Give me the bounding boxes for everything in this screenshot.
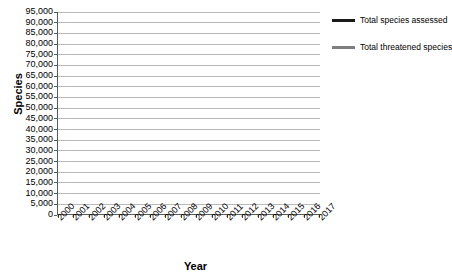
y-axis-tick-mark: [54, 108, 57, 109]
gridline: [57, 33, 320, 34]
y-axis-tick-mark: [54, 65, 57, 66]
chart-legend: Total species assessedTotal threatened s…: [332, 13, 450, 67]
y-axis-tick-label: 45,000: [7, 114, 53, 123]
legend-item-label: Total species assessed: [360, 15, 447, 25]
gridline: [57, 86, 320, 87]
gridline: [57, 161, 320, 162]
y-axis-tick-label: 90,000: [7, 18, 53, 27]
y-axis-tick-mark: [54, 204, 57, 205]
y-axis-tick-mark: [54, 22, 57, 23]
y-axis-line: [57, 12, 58, 215]
gridline: [57, 108, 320, 109]
y-axis-tick-label: 30,000: [7, 146, 53, 155]
legend-line-swatch: [332, 19, 355, 22]
gridline: [57, 12, 320, 13]
x-axis-title: Year: [0, 260, 451, 272]
y-axis-tick-mark: [54, 129, 57, 130]
gridline: [57, 193, 320, 194]
y-axis-tick-label: 5,000: [7, 199, 53, 208]
gridline: [57, 97, 320, 98]
y-axis-tick-label: 85,000: [7, 28, 53, 37]
gridline: [57, 129, 320, 130]
y-axis-tick-label: 40,000: [7, 125, 53, 134]
legend-item[interactable]: Total threatened species: [332, 40, 450, 54]
gridline: [57, 65, 320, 66]
y-axis-tick-label: 25,000: [7, 157, 53, 166]
y-axis-tick-label: 75,000: [7, 50, 53, 59]
y-axis-tick-mark: [54, 44, 57, 45]
y-axis-tick-label: 0: [7, 210, 53, 219]
y-axis-tick-label: 20,000: [7, 167, 53, 176]
y-axis-tick-label: 15,000: [7, 178, 53, 187]
y-axis-tick-label: 35,000: [7, 135, 53, 144]
plot-background: [57, 12, 320, 215]
legend-line-swatch: [332, 46, 355, 49]
y-axis-tick-mark: [54, 193, 57, 194]
gridline: [57, 44, 320, 45]
gridline: [57, 22, 320, 23]
gridline: [57, 182, 320, 183]
y-axis-tick-mark: [54, 118, 57, 119]
y-axis-tick-mark: [54, 161, 57, 162]
gridline: [57, 76, 320, 77]
y-axis-tick-mark: [54, 172, 57, 173]
y-axis-tick-label: 65,000: [7, 71, 53, 80]
y-axis-tick-label: 95,000: [7, 7, 53, 16]
y-axis-tick-mark: [54, 150, 57, 151]
gridline: [57, 118, 320, 119]
y-axis-tick-label: 70,000: [7, 60, 53, 69]
y-axis-tick-mark: [54, 140, 57, 141]
legend-item[interactable]: Total species assessed: [332, 13, 450, 27]
gridline: [57, 150, 320, 151]
y-axis-tick-mark: [54, 12, 57, 13]
y-axis-tick-mark: [54, 33, 57, 34]
plot-area: [57, 12, 320, 215]
y-axis-tick-label: 50,000: [7, 103, 53, 112]
y-axis-tick-mark: [54, 54, 57, 55]
y-axis-tick-mark: [54, 76, 57, 77]
y-axis-tick-labels: 05,00010,00015,00020,00025,00030,00035,0…: [5, 12, 53, 215]
legend-item-label: Total threatened species: [360, 42, 452, 52]
y-axis-tick-label: 60,000: [7, 82, 53, 91]
y-axis-tick-mark: [54, 182, 57, 183]
y-axis-tick-label: 55,000: [7, 92, 53, 101]
y-axis-tick-mark: [54, 97, 57, 98]
gridline: [57, 54, 320, 55]
x-axis-title-text: Year: [184, 260, 207, 272]
y-axis-tick-label: 10,000: [7, 189, 53, 198]
gridline: [57, 172, 320, 173]
x-axis-tick-labels: 2000200120022003200420052006200720082009…: [57, 216, 320, 258]
y-axis-tick-mark: [54, 86, 57, 87]
y-axis-tick-label: 80,000: [7, 39, 53, 48]
gridline: [57, 140, 320, 141]
